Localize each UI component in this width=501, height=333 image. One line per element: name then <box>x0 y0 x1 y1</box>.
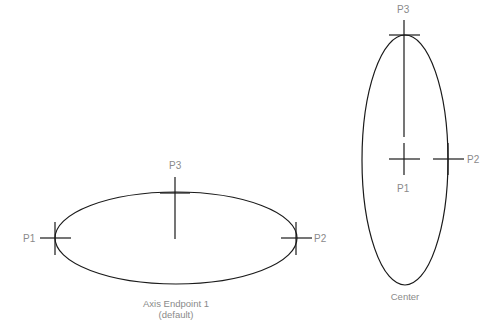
center-ellipse <box>362 35 448 285</box>
p1-marker-icon <box>40 222 71 255</box>
ellipse-diagrams-canvas <box>0 0 501 333</box>
p1-marker-icon <box>389 143 420 175</box>
right-p1-label: P1 <box>397 183 409 194</box>
left-p3-label: P3 <box>169 160 181 171</box>
right-p2-label: P2 <box>467 154 479 165</box>
left-p2-label: P2 <box>314 233 326 244</box>
axis-endpoint-ellipse <box>55 192 297 284</box>
right-p3-label: P3 <box>397 4 409 15</box>
left-p1-label: P1 <box>23 233 35 244</box>
center-caption: Center <box>365 291 445 302</box>
p3-marker-icon <box>160 177 190 239</box>
axis-endpoint-method-label: Axis Endpoint 1 <box>116 298 236 309</box>
axis-endpoint-caption: Axis Endpoint 1 (default) <box>116 298 236 320</box>
axis-endpoint-ellipse-diagram <box>40 177 312 284</box>
axis-endpoint-default-note: (default) <box>116 309 236 320</box>
center-ellipse-diagram <box>362 20 464 285</box>
p2-marker-icon <box>281 222 312 255</box>
p3-marker-icon <box>389 20 420 137</box>
p2-marker-icon <box>433 143 464 175</box>
